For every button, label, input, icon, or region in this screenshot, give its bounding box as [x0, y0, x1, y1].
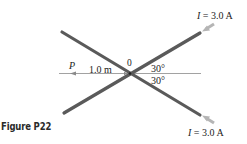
- angle-upper-label: 30°: [151, 63, 165, 74]
- point-p-arrow-icon: [70, 72, 76, 76]
- origin-label: 0: [127, 58, 132, 68]
- origin-point: [129, 72, 132, 75]
- figure-caption: Figure P22: [1, 121, 51, 132]
- current-lower-label: I = 3.0 A: [187, 127, 224, 138]
- current-arrow-lower-icon: [202, 116, 214, 124]
- current-upper-label: I = 3.0 A: [196, 10, 233, 21]
- angle-lower-label: 30°: [151, 75, 165, 86]
- distance-label: 1.0 m: [89, 64, 112, 75]
- point-p-label: P: [68, 60, 75, 71]
- current-arrow-upper-icon: [202, 24, 214, 32]
